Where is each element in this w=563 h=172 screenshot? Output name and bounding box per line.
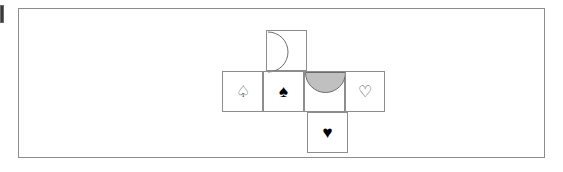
spade-solid-icon: ♠ bbox=[264, 72, 303, 111]
cell-middle-3 bbox=[304, 71, 345, 112]
cell-bottom: ♥ bbox=[307, 112, 348, 153]
semicircle-filled-down-icon bbox=[305, 72, 346, 113]
spade-outline-icon: ♤ bbox=[223, 72, 262, 111]
semicircle-outline-right-icon bbox=[267, 31, 308, 72]
cell-middle-4: ♡ bbox=[345, 71, 385, 112]
heart-solid-icon: ♥ bbox=[308, 113, 347, 152]
figure-canvas: ♤ ♠ ♡ ♥ bbox=[0, 0, 563, 172]
cell-middle-2: ♠ bbox=[263, 71, 304, 112]
cell-middle-1: ♤ bbox=[222, 71, 263, 112]
outer-frame: ♤ ♠ ♡ ♥ bbox=[18, 8, 545, 158]
cell-top bbox=[266, 30, 307, 71]
cube-net-group: ♤ ♠ ♡ ♥ bbox=[222, 30, 385, 152]
heart-outline-icon: ♡ bbox=[346, 72, 384, 111]
left-edge-artifact bbox=[0, 5, 4, 23]
